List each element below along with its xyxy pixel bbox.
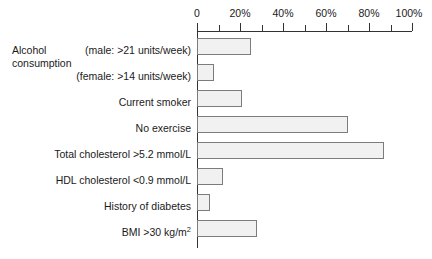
group-label-alcohol-consumption: Alcohol consumption — [12, 44, 92, 70]
plot-area: 0 20% 40% 60% 80% 100% — [197, 0, 412, 259]
axis-tick-70 — [348, 25, 349, 31]
category-label-alcohol-female: (female: >14 units/week) — [76, 70, 191, 82]
axis-tick-label-100: 100% — [396, 8, 423, 19]
category-label-bmi-text: BMI >30 kg/m — [122, 226, 187, 238]
bar-current-smoker — [197, 90, 242, 107]
category-label-current-smoker: Current smoker — [119, 96, 191, 108]
bar-history-of-diabetes — [197, 194, 210, 211]
category-label-hdl-cholesterol: HDL cholesterol <0.9 mmol/L — [56, 174, 191, 186]
category-label-alcohol-male: (male: >21 units/week) — [85, 44, 191, 56]
axis-tick-20 — [240, 23, 241, 31]
category-label-bmi-superscript: 2 — [187, 225, 191, 234]
axis-tick-label-60: 60% — [315, 8, 336, 19]
bar-hdl-cholesterol — [197, 168, 223, 185]
axis-tick-10 — [219, 25, 220, 31]
bar-chart: Alcohol consumption (male: >21 units/wee… — [0, 0, 432, 259]
axis-tick-80 — [369, 23, 370, 31]
category-label-bmi: BMI >30 kg/m2 — [122, 226, 191, 238]
bar-alcohol-male — [197, 38, 251, 55]
axis-tick-label-80: 80% — [358, 8, 379, 19]
axis-tick-90 — [391, 25, 392, 31]
axis-tick-50 — [305, 25, 306, 31]
axis-tick-0 — [197, 23, 198, 31]
axis-tick-100 — [412, 23, 413, 31]
category-label-no-exercise: No exercise — [136, 122, 191, 134]
x-axis-line — [197, 31, 412, 32]
bar-total-cholesterol — [197, 142, 384, 159]
bar-bmi — [197, 220, 257, 237]
axis-tick-60 — [326, 23, 327, 31]
bar-no-exercise — [197, 116, 348, 133]
bar-alcohol-female — [197, 64, 214, 81]
group-label-line1: Alcohol — [12, 44, 92, 57]
axis-tick-label-40: 40% — [272, 8, 293, 19]
group-label-line2: consumption — [12, 57, 92, 70]
axis-tick-label-20: 20% — [229, 8, 250, 19]
category-label-total-cholesterol: Total cholesterol >5.2 mmol/L — [54, 148, 191, 160]
category-label-history-of-diabetes: History of diabetes — [104, 200, 191, 212]
axis-tick-label-0: 0 — [194, 8, 200, 19]
axis-tick-40 — [283, 23, 284, 31]
axis-tick-30 — [262, 25, 263, 31]
